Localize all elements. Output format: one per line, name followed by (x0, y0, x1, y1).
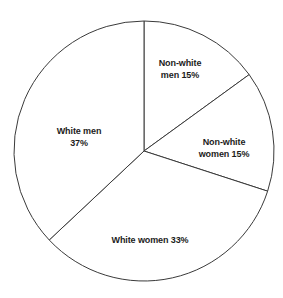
pie-chart-figure: Non-white men 15%Non-white women 15%Whit… (0, 0, 283, 298)
pie-slice-label-white-women: White women 33% (111, 235, 188, 247)
pie-slice-label-non-white-women: Non-white women 15% (199, 137, 250, 160)
pie-slice-label-non-white-men: Non-white men 15% (159, 58, 202, 81)
pie-slice-label-white-men: White men 37% (57, 126, 102, 149)
